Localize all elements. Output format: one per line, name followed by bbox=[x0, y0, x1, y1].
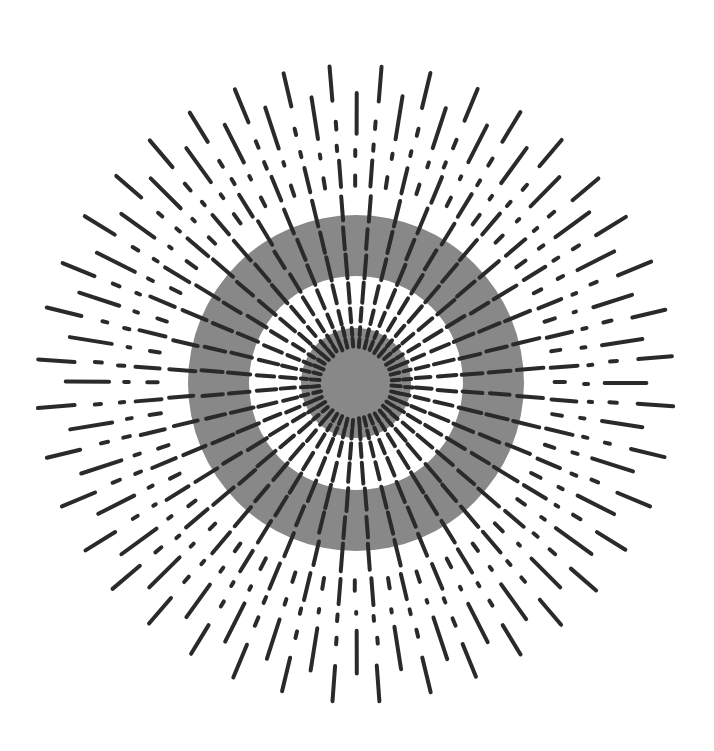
ray-dash bbox=[391, 386, 400, 387]
ray-dash bbox=[101, 442, 108, 444]
ray-dash bbox=[124, 328, 129, 329]
ray-dash bbox=[231, 582, 233, 586]
ray-dash bbox=[602, 421, 642, 427]
ray-dash bbox=[478, 489, 499, 507]
ray-dash bbox=[348, 463, 349, 482]
ray-dash bbox=[291, 186, 294, 196]
ray-dash bbox=[489, 371, 511, 373]
secondary-ray bbox=[186, 148, 240, 223]
ray-dash bbox=[480, 261, 499, 277]
ray-dash bbox=[488, 159, 492, 166]
ray-dash bbox=[153, 504, 155, 506]
ray-dash bbox=[541, 517, 545, 520]
ray-dash bbox=[304, 573, 310, 600]
ray-dash bbox=[187, 261, 197, 268]
secondary-ray bbox=[534, 251, 614, 293]
ray-dash bbox=[102, 321, 107, 322]
ray-dash bbox=[507, 561, 510, 565]
ray-dash bbox=[374, 332, 376, 338]
ray-dash bbox=[524, 267, 545, 280]
ray-dash bbox=[531, 473, 540, 478]
ray-dash bbox=[370, 160, 372, 186]
ray-dash bbox=[158, 213, 162, 217]
ray-dash bbox=[234, 241, 251, 261]
ray-dash bbox=[284, 73, 292, 106]
secondary-ray bbox=[265, 108, 294, 196]
ray-dash bbox=[233, 645, 247, 678]
ray-dash bbox=[605, 443, 610, 444]
ray-dash bbox=[265, 108, 278, 149]
ray-dash bbox=[260, 558, 265, 569]
ray-dash bbox=[281, 388, 295, 389]
ray-dash bbox=[583, 437, 587, 438]
secondary-ray bbox=[495, 523, 560, 587]
ray-dash bbox=[38, 405, 75, 408]
ray-dash bbox=[362, 463, 364, 484]
secondary-ray bbox=[473, 544, 526, 620]
secondary-ray bbox=[312, 97, 326, 188]
ray-dash bbox=[239, 195, 253, 217]
secondary-ray bbox=[447, 126, 487, 207]
ray-dash bbox=[495, 523, 503, 531]
ray-dash bbox=[391, 372, 400, 374]
ray-dash bbox=[152, 458, 176, 468]
ray-dash bbox=[360, 443, 361, 457]
ray-dash bbox=[573, 178, 599, 200]
secondary-ray bbox=[98, 474, 179, 514]
ray-dash bbox=[410, 609, 411, 614]
ray-dash bbox=[364, 417, 366, 426]
ray-dash bbox=[517, 396, 543, 398]
ray-dash bbox=[169, 396, 193, 398]
ray-dash bbox=[151, 178, 181, 208]
ray-dash bbox=[390, 397, 397, 400]
ray-dash bbox=[473, 215, 480, 225]
ray-dash bbox=[531, 177, 560, 206]
ray-dash bbox=[359, 418, 360, 429]
ray-dash bbox=[596, 217, 626, 235]
ray-dash bbox=[549, 212, 554, 217]
secondary-ray bbox=[70, 337, 160, 352]
ray-dash bbox=[264, 162, 267, 168]
ray-dash bbox=[468, 126, 487, 163]
ray-dash bbox=[240, 551, 253, 571]
ray-dash bbox=[295, 631, 297, 638]
ray-dash bbox=[272, 177, 282, 201]
ray-dash bbox=[70, 423, 112, 430]
ray-dash bbox=[304, 168, 310, 192]
ray-dash bbox=[312, 97, 318, 139]
ray-dash bbox=[213, 487, 233, 504]
ray-dash bbox=[556, 528, 592, 554]
ray-dash bbox=[346, 488, 348, 511]
ray-dash bbox=[346, 255, 348, 279]
ray-dash bbox=[502, 112, 520, 142]
ray-dash bbox=[269, 564, 280, 589]
ray-dash bbox=[377, 666, 380, 702]
ray-dash bbox=[257, 375, 274, 376]
ray-dash bbox=[185, 184, 191, 191]
ray-dash bbox=[572, 293, 576, 295]
ray-dash bbox=[188, 501, 195, 506]
ray-dash bbox=[267, 620, 280, 659]
ray-dash bbox=[350, 309, 351, 323]
ray-dash bbox=[85, 532, 115, 550]
ray-dash bbox=[578, 251, 615, 270]
ray-dash bbox=[360, 327, 361, 335]
ray-dash bbox=[574, 312, 576, 313]
ray-dash bbox=[438, 390, 457, 392]
ray-dash bbox=[141, 429, 165, 435]
ray-dash bbox=[361, 308, 362, 321]
ray-dash bbox=[444, 598, 446, 602]
ray-dash bbox=[638, 404, 673, 407]
ray-dash bbox=[313, 373, 320, 375]
ray-dash bbox=[149, 557, 179, 587]
secondary-ray bbox=[531, 473, 614, 514]
ray-dash bbox=[632, 310, 665, 318]
ray-dash bbox=[547, 332, 572, 338]
ray-dash bbox=[184, 577, 189, 582]
ray-dash bbox=[327, 425, 330, 431]
ray-dash bbox=[517, 219, 519, 221]
ray-dash bbox=[337, 615, 338, 622]
ray-dash bbox=[165, 267, 189, 282]
ray-dash bbox=[312, 386, 319, 387]
ray-dash bbox=[186, 585, 209, 617]
